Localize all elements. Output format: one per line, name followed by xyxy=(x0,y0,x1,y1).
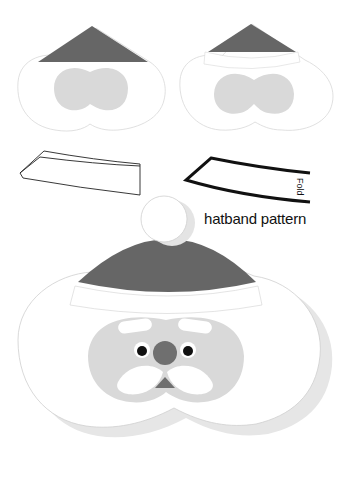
hat-icon xyxy=(208,24,296,52)
face-icon xyxy=(54,68,128,110)
step-1-heart xyxy=(18,26,165,131)
hat-icon xyxy=(38,26,148,62)
step-2-heart xyxy=(180,24,333,130)
folded-hatband-strip xyxy=(20,151,140,195)
hatband-pattern-label: hatband pattern xyxy=(204,210,306,227)
nose-icon xyxy=(153,341,177,365)
fold-label: Fold xyxy=(295,178,305,196)
santa-craft-diagram xyxy=(0,0,348,486)
finished-santa xyxy=(18,196,332,437)
hatband-pattern xyxy=(186,158,310,202)
pompom-icon xyxy=(141,196,187,242)
hat-icon xyxy=(78,239,256,292)
